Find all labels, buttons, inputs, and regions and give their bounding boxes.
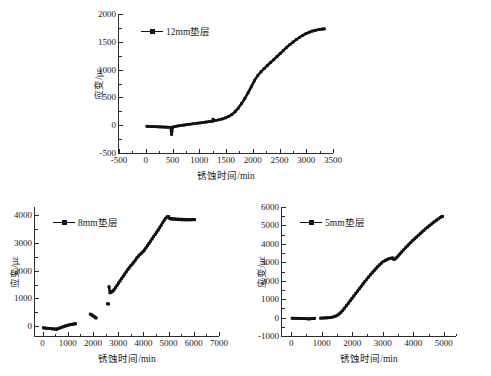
data-point-marker (349, 299, 352, 302)
data-point-marker (160, 224, 163, 227)
y-tick-label-5mm: 6000 (261, 203, 279, 212)
data-point-marker (161, 126, 164, 129)
series-svg-12mm (119, 14, 334, 154)
data-point-marker (250, 85, 253, 88)
data-point-marker (161, 221, 164, 224)
data-point-marker (292, 41, 295, 44)
data-point-marker (167, 126, 170, 129)
x-tick-label-12mm: -500 (111, 156, 128, 165)
x-tick-label-5mm: 3000 (374, 339, 392, 348)
data-point-marker (295, 38, 298, 41)
series-path (147, 29, 324, 135)
data-point-marker (311, 30, 314, 33)
data-point-marker (164, 126, 167, 129)
x-tick-label-12mm: 1000 (190, 156, 208, 165)
x-tick-label-12mm: 3500 (324, 156, 342, 165)
data-point-marker (198, 122, 201, 125)
data-point-marker (170, 133, 173, 136)
y-tick-label-5mm: 2000 (261, 276, 279, 285)
data-point-marker (74, 322, 77, 325)
data-point-marker (234, 110, 237, 113)
x-axis-title-8mm: 锈蚀时间/min (98, 351, 155, 365)
x-tick-label-12mm: 2500 (271, 156, 289, 165)
y-tick-label-5mm: -1000 (258, 332, 279, 341)
x-tick-label-5mm: 5000 (435, 339, 453, 348)
data-point-marker (108, 285, 111, 288)
data-point-marker (153, 125, 156, 128)
data-point-marker (189, 123, 192, 126)
data-point-marker (362, 282, 365, 285)
panel-8mm: 应变/με 锈蚀时间/min 8mm垫层 4000 3000 2000 1000… (34, 203, 249, 373)
x-tick-label-8mm: 0 (40, 339, 45, 348)
data-point-marker (214, 119, 217, 122)
x-tick-label-5mm: 0 (289, 339, 294, 348)
data-point-marker (95, 317, 98, 320)
data-point-marker (193, 218, 196, 221)
y-tick-label-5mm: 3000 (261, 258, 279, 267)
y-tick-label-12mm: 500 (103, 93, 117, 102)
x-tick-label-12mm: 3000 (297, 156, 315, 165)
data-point-marker (289, 43, 292, 46)
y-tick-label-8mm: 2000 (14, 266, 32, 275)
plot-area-12mm: 应变/με 锈蚀时间/min 12mm垫层 2000 1500 1000 500… (118, 14, 333, 154)
y-tick-label-8mm: 1000 (14, 294, 32, 303)
y-tick-label-5mm: 4000 (261, 239, 279, 248)
data-point-marker (247, 92, 250, 95)
data-point-marker (182, 124, 185, 127)
data-point-marker (176, 125, 179, 128)
data-point-marker (243, 97, 246, 100)
data-point-marker (358, 287, 361, 290)
data-point-marker (230, 113, 233, 116)
panel-12mm: 应变/με 锈蚀时间/min 12mm垫层 2000 1500 1000 500… (118, 8, 368, 188)
series-svg-5mm (282, 207, 457, 337)
y-tick-label-5mm: 1000 (261, 295, 279, 304)
x-tick-label-8mm: 4000 (134, 339, 152, 348)
data-point-marker (221, 118, 224, 121)
x-axis-title-12mm: 锈蚀时间/min (197, 168, 254, 182)
data-point-marker (345, 304, 348, 307)
x-tick-label-5mm: 4000 (404, 339, 422, 348)
data-point-marker (227, 115, 230, 118)
data-point-marker (441, 215, 444, 218)
data-point-marker (150, 125, 153, 128)
data-point-marker (298, 36, 301, 39)
data-canvas-12mm (119, 14, 333, 153)
data-point-marker (285, 46, 288, 49)
data-point-marker (107, 303, 110, 306)
series-svg-8mm (35, 207, 220, 337)
data-point-marker (158, 126, 161, 129)
data-point-marker (276, 55, 279, 58)
data-point-marker (360, 285, 363, 288)
y-tick-label-8mm: 3000 (14, 238, 32, 247)
x-tick-label-12mm: 1500 (217, 156, 235, 165)
x-tick-label-8mm: 6000 (185, 339, 203, 348)
data-point-marker (201, 121, 204, 124)
data-point-marker (260, 71, 263, 74)
data-point-marker (323, 27, 326, 30)
x-tick-label-5mm: 2000 (343, 339, 361, 348)
x-tick-label-12mm: 500 (166, 156, 180, 165)
x-tick-label-8mm: 3000 (109, 339, 127, 348)
data-point-marker (263, 67, 266, 70)
plot-area-8mm: 应变/με 锈蚀时间/min 8mm垫层 4000 3000 2000 1000… (34, 207, 219, 337)
data-point-marker (313, 317, 316, 320)
data-point-marker (282, 49, 285, 52)
x-axis-title-5mm: 锈蚀时间/min (340, 351, 397, 365)
y-tick-label-12mm: 1000 (98, 65, 116, 74)
x-tick-label-12mm: 0 (144, 156, 149, 165)
data-point-marker (240, 102, 243, 105)
data-point-marker (266, 64, 269, 67)
data-point-marker (301, 34, 304, 37)
y-tick-label-12mm: 0 (112, 121, 117, 130)
data-point-marker (352, 295, 355, 298)
data-point-marker (318, 28, 321, 31)
data-point-marker (205, 121, 208, 124)
data-point-marker (174, 125, 177, 128)
data-point-marker (192, 122, 195, 125)
data-point-marker (305, 32, 308, 35)
data-point-marker (256, 74, 259, 77)
data-point-marker (279, 52, 282, 55)
y-tick-label-5mm: 5000 (261, 221, 279, 230)
data-point-marker (356, 290, 359, 293)
x-tick-label-8mm: 5000 (160, 339, 178, 348)
